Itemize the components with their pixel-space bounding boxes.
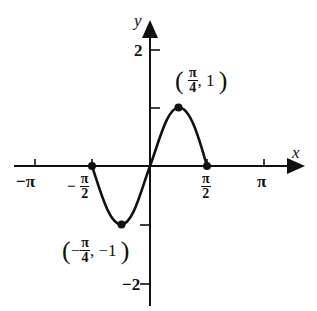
- plot-canvas: [0, 0, 317, 311]
- point-minimum: [118, 221, 126, 229]
- x-tick-label-neg-half-pi: − π2: [67, 172, 89, 201]
- annotation-maximum: ( π4, 1 ): [175, 66, 228, 95]
- y-tick-label-neg2: −2: [122, 276, 140, 293]
- y-tick-label-2: 2: [134, 42, 143, 59]
- point-maximum: [175, 104, 183, 112]
- y-axis-label: y: [134, 12, 142, 29]
- x-tick-label-neg-pi: −π: [16, 173, 35, 190]
- x-tick-label-pi: π: [257, 173, 266, 190]
- point-neg-half-pi: [88, 162, 96, 170]
- point-half-pi: [203, 162, 211, 170]
- annotation-minimum: (−π4, −1 ): [62, 236, 129, 265]
- x-tick-label-half-pi: π2: [201, 172, 211, 201]
- x-axis-label: x: [292, 144, 300, 161]
